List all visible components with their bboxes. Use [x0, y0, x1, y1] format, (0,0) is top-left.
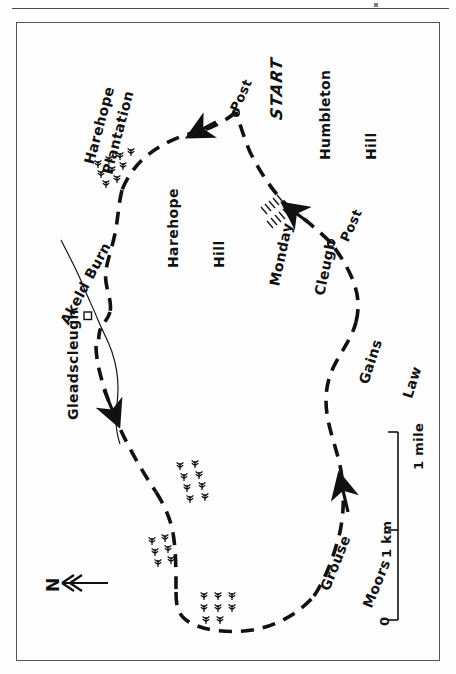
label-humbleton-hill: Humbleton Hill	[288, 70, 409, 160]
map-page: START Humbleton Hill Post Post Harehope …	[0, 0, 456, 674]
label-harehope-hill: Harehope Hill	[136, 188, 257, 268]
label-north: N	[44, 577, 62, 592]
label-gains-law-line1: Gains	[357, 338, 386, 386]
label-humbleton-hill-line1: Humbleton	[318, 70, 333, 160]
label-grouse-moors-line2: Moors	[360, 550, 396, 610]
label-gains-law-line2: Law	[400, 352, 429, 400]
label-monday-cleugh-line1: Monday	[268, 222, 296, 288]
label-harehope-hill-line2: Hill	[212, 188, 227, 268]
scale-label-mile: 1 mile	[412, 423, 426, 470]
label-harehope-hill-line1: Harehope	[166, 188, 181, 268]
label-grouse-moors-line1: Grouse	[318, 533, 354, 593]
scale-label-zero: 0	[378, 617, 392, 626]
page-header-rule	[12, 8, 449, 9]
scale-label-km: 1 km	[380, 521, 394, 558]
label-start: START	[268, 56, 285, 121]
scan-speck	[374, 3, 378, 7]
label-monday-cleugh-line2: Cleugh	[312, 231, 340, 297]
label-humbleton-hill-line2: Hill	[364, 70, 379, 160]
